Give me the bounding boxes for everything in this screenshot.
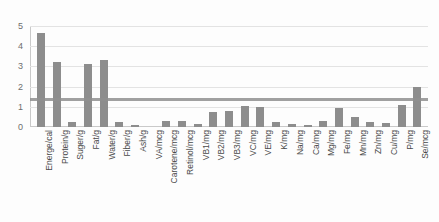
- bar-chart: 5 4 3 2 1 0 Energe/calProtein/gSuger/gFa…: [0, 0, 439, 222]
- bar-slot: [143, 26, 159, 127]
- bar[interactable]: [84, 64, 92, 127]
- x-label-slot: Se/mcg: [410, 130, 426, 222]
- bar[interactable]: [382, 123, 390, 127]
- bar-slot: [362, 26, 378, 127]
- bar-slot: [284, 26, 300, 127]
- x-label-slot: VB3/mg: [221, 130, 237, 222]
- bar[interactable]: [272, 122, 280, 127]
- bar[interactable]: [366, 122, 374, 127]
- x-label-slot: Ash/g: [127, 130, 143, 222]
- bar[interactable]: [413, 87, 421, 127]
- bar[interactable]: [241, 106, 249, 127]
- x-label-slot: Mg/mg: [315, 130, 331, 222]
- y-axis: 5 4 3 2 1 0: [0, 0, 28, 222]
- x-label-slot: VB1/mg: [190, 130, 206, 222]
- bar[interactable]: [304, 125, 312, 127]
- x-label-slot: Carotene/mcg: [159, 130, 175, 222]
- bar-slot: [190, 26, 206, 127]
- bar-slot: [410, 26, 426, 127]
- horizontal-reference-line: [30, 98, 428, 101]
- bar-slot: [174, 26, 190, 127]
- x-label-slot: Mn/mg: [347, 130, 363, 222]
- x-label-slot: Energe/cal: [33, 130, 49, 222]
- bar-slot: [80, 26, 96, 127]
- bar-slot: [221, 26, 237, 127]
- x-axis-labels: Energe/calProtein/gSuger/gFat/gWater/gFi…: [30, 130, 428, 222]
- bar[interactable]: [288, 124, 296, 127]
- x-label-slot: Retinol/mcg: [174, 130, 190, 222]
- bar-slot: [111, 26, 127, 127]
- bar[interactable]: [335, 108, 343, 127]
- bar-slot: [331, 26, 347, 127]
- bar-slot: [237, 26, 253, 127]
- bar[interactable]: [115, 122, 123, 127]
- bar-slot: [49, 26, 65, 127]
- bar-slot: [33, 26, 49, 127]
- x-label-slot: Zn/mg: [362, 130, 378, 222]
- bar[interactable]: [162, 121, 170, 127]
- bar[interactable]: [256, 107, 264, 127]
- y-tick-5: 5: [18, 22, 23, 31]
- y-tick-4: 4: [18, 42, 23, 51]
- bar-slot: [300, 26, 316, 127]
- bar[interactable]: [398, 105, 406, 127]
- bar-series: [30, 26, 428, 127]
- bar-slot: [315, 26, 331, 127]
- plot-area: [30, 26, 428, 127]
- x-label-slot: Fat/g: [80, 130, 96, 222]
- bar-slot: [347, 26, 363, 127]
- x-label-slot: K/mg: [268, 130, 284, 222]
- bar-slot: [159, 26, 175, 127]
- y-tick-1: 1: [18, 102, 23, 111]
- bar-slot: [378, 26, 394, 127]
- bar[interactable]: [209, 112, 217, 127]
- bar[interactable]: [37, 33, 45, 127]
- x-label-slot: VC/mg: [237, 130, 253, 222]
- bar-slot: [96, 26, 112, 127]
- bar-slot: [206, 26, 222, 127]
- x-label-slot: VB2/mg: [206, 130, 222, 222]
- bar[interactable]: [100, 60, 108, 127]
- bar-slot: [394, 26, 410, 127]
- x-label-slot: Na/mg: [284, 130, 300, 222]
- x-label-slot: P/mg: [394, 130, 410, 222]
- bar[interactable]: [319, 121, 327, 127]
- bar-slot: [268, 26, 284, 127]
- bar[interactable]: [194, 124, 202, 127]
- x-label-slot: Fiber/g: [111, 130, 127, 222]
- x-label-slot: VA/mcg: [143, 130, 159, 222]
- bar-slot: [253, 26, 269, 127]
- bar[interactable]: [53, 62, 61, 127]
- bar-slot: [64, 26, 80, 127]
- bar[interactable]: [225, 111, 233, 127]
- x-label-slot: Suger/g: [64, 130, 80, 222]
- bar-slot: [127, 26, 143, 127]
- y-tick-3: 3: [18, 62, 23, 71]
- x-label-slot: Cu/mg: [378, 130, 394, 222]
- bar[interactable]: [131, 125, 139, 127]
- x-label-slot: Protein/g: [49, 130, 65, 222]
- bar[interactable]: [351, 117, 359, 127]
- x-label-slot: Fe/mg: [331, 130, 347, 222]
- bar[interactable]: [178, 121, 186, 127]
- x-label-slot: Water/g: [96, 130, 112, 222]
- x-label-slot: VE/mg: [253, 130, 269, 222]
- x-axis-tick-label: Se/mcg: [422, 130, 431, 159]
- y-tick-2: 2: [18, 82, 23, 91]
- bar[interactable]: [68, 122, 76, 127]
- y-tick-0: 0: [18, 123, 23, 132]
- x-label-slot: Ca/mg: [300, 130, 316, 222]
